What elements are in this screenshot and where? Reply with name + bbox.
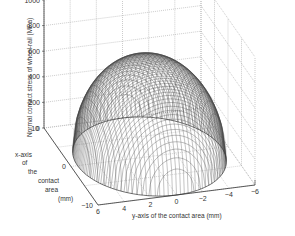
z-axis-label: Normal contact stress of wheel-rail (MPa… [26,18,34,137]
y-tick-label: 0 [175,198,179,205]
x-axis-label-line: area [45,186,58,193]
x-tick-label: −10 [81,202,93,209]
surface-line [117,115,220,190]
surface-line [139,54,192,192]
surface-line [83,68,225,172]
y-tick-label: 2 [148,201,152,208]
surface-line [142,149,205,195]
y-tick-label: −2 [199,195,207,202]
y-axis-label: y-axis of the contact area (mm) [132,212,222,220]
y-tick-label: 4 [122,205,126,212]
x-axis-label-line: (mm) [58,195,73,203]
surface-line [124,124,216,192]
surface-mesh [73,53,227,196]
y-tick-label: −6 [251,188,259,195]
surface-chart: 02004006008001000 100−10 6420−2−4−6 Norm… [0,0,295,236]
x-axis-label-line: contact [38,177,59,184]
x-axis-label: x-axisofthecontactarea(mm) [15,151,73,203]
grid-lines [44,0,255,205]
axes [44,0,255,205]
x-axis-label-line: the [28,168,37,175]
y-tick-label: 6 [96,208,100,215]
x-axis-label-line: of [22,159,28,166]
x-axis-label-line: x-axis [15,151,33,158]
surface-line [73,53,212,155]
y-tick-labels: 6420−2−4−6 [96,188,259,215]
x-tick-label: 0 [62,163,66,170]
z-tick-label: 1000 [24,0,40,4]
y-tick-label: −4 [225,191,233,198]
